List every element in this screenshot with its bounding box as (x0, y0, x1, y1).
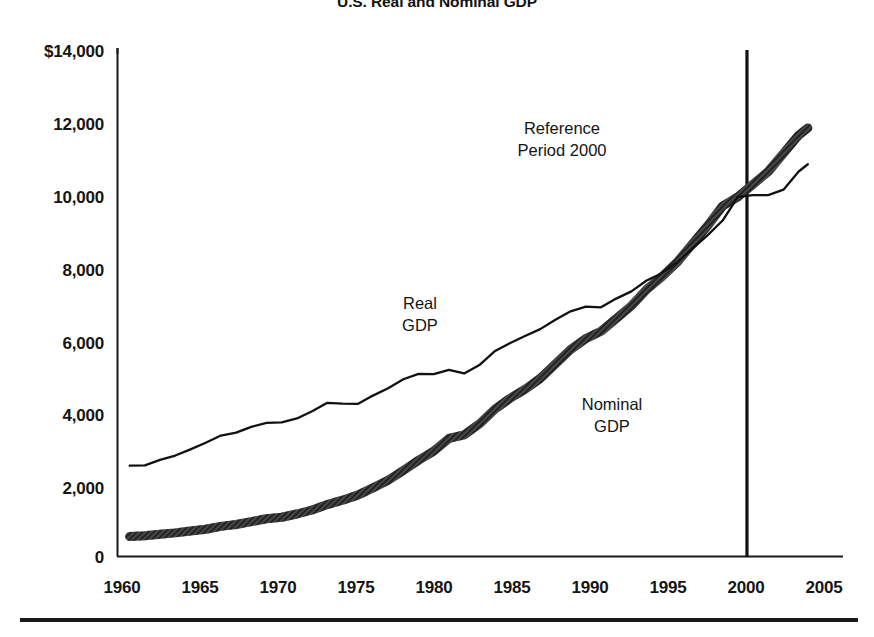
axes (117, 48, 843, 557)
footer-rule (20, 618, 858, 622)
nominal-gdp-series-shading (130, 128, 808, 537)
nominal-gdp-series-line (130, 128, 808, 537)
plot-area (0, 0, 874, 637)
chart-figure: U.S. Real and Nominal GDP $14,000 12,000… (0, 0, 874, 637)
real-gdp-series-line (130, 164, 808, 465)
